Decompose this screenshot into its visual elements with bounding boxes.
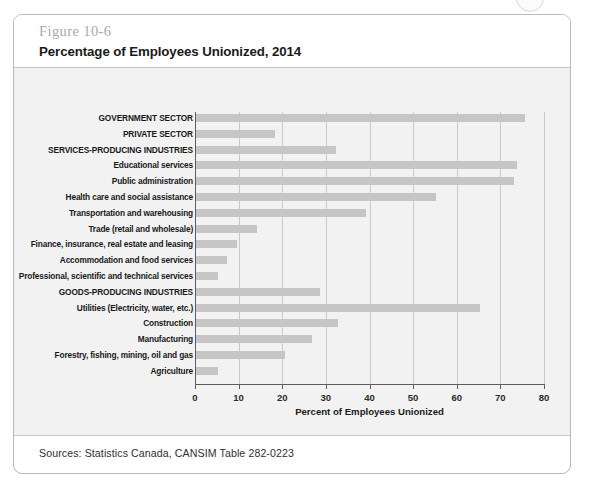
bar xyxy=(196,146,336,154)
x-axis-tick xyxy=(195,384,196,389)
bar xyxy=(196,161,517,169)
x-axis-title: Percent of Employees Unionized xyxy=(195,406,544,417)
x-axis-tick xyxy=(370,384,371,389)
chart-panel: 01020304050607080 Percent of Employees U… xyxy=(14,68,570,435)
x-axis-tick-label: 30 xyxy=(321,392,332,403)
figure-source: Sources: Statistics Canada, CANSIM Table… xyxy=(39,447,294,459)
gridline xyxy=(544,112,545,384)
figure-title: Percentage of Employees Unionized, 2014 xyxy=(39,42,570,62)
x-axis-tick xyxy=(326,384,327,389)
bar xyxy=(196,288,320,296)
plot-area: 01020304050607080 xyxy=(195,112,544,384)
x-axis-tick xyxy=(457,384,458,389)
x-axis-tick-label: 50 xyxy=(408,392,419,403)
category-label: Construction xyxy=(14,318,193,328)
bar xyxy=(196,367,218,375)
bar xyxy=(196,209,366,217)
gridline xyxy=(500,112,501,384)
chart-inner: 01020304050607080 Percent of Employees U… xyxy=(14,68,570,435)
x-axis-tick-label: 60 xyxy=(451,392,462,403)
category-label: Forestry, fishing, mining, oil and gas xyxy=(14,350,193,360)
page-corner-marker xyxy=(516,0,544,12)
category-label: PRIVATE SECTOR xyxy=(14,129,193,139)
category-label: Professional, scientific and technical s… xyxy=(14,271,193,281)
x-axis-tick xyxy=(282,384,283,389)
x-axis-tick xyxy=(239,384,240,389)
bar xyxy=(196,177,514,185)
category-label: Transportation and warehousing xyxy=(14,208,193,218)
x-axis-tick xyxy=(544,384,545,389)
gridline xyxy=(457,112,458,384)
bar xyxy=(196,130,275,138)
figure-container: Figure 10-6 Percentage of Employees Unio… xyxy=(13,14,571,474)
bar xyxy=(196,304,480,312)
figure-header: Figure 10-6 Percentage of Employees Unio… xyxy=(14,15,570,67)
bar xyxy=(196,319,338,327)
x-axis-tick xyxy=(413,384,414,389)
x-axis-tick-label: 70 xyxy=(495,392,506,403)
x-axis-tick xyxy=(500,384,501,389)
category-label: Trade (retail and wholesale) xyxy=(14,224,193,234)
bar xyxy=(196,114,525,122)
x-axis-tick-label: 10 xyxy=(233,392,244,403)
category-label: Finance, insurance, real estate and leas… xyxy=(14,239,193,249)
bar xyxy=(196,225,257,233)
category-label: GOVERNMENT SECTOR xyxy=(14,113,193,123)
category-label: Accommodation and food services xyxy=(14,255,193,265)
category-label: Educational services xyxy=(14,160,193,170)
bar xyxy=(196,193,436,201)
figure-page: Figure 10-6 Percentage of Employees Unio… xyxy=(0,0,590,488)
category-label: Manufacturing xyxy=(14,334,193,344)
gridline xyxy=(413,112,414,384)
bar xyxy=(196,240,237,248)
category-label: GOODS-PRODUCING INDUSTRIES xyxy=(14,287,193,297)
figure-number: Figure 10-6 xyxy=(39,23,570,40)
gridline xyxy=(370,112,371,384)
category-label: Agriculture xyxy=(14,366,193,376)
footer-divider xyxy=(14,435,570,436)
x-axis-tick-label: 80 xyxy=(539,392,550,403)
x-axis-tick-label: 40 xyxy=(364,392,375,403)
category-label: SERVICES-PRODUCING INDUSTRIES xyxy=(14,145,193,155)
category-label: Public administration xyxy=(14,176,193,186)
category-label: Utilities (Electricity, water, etc.) xyxy=(14,303,193,313)
bar xyxy=(196,272,218,280)
x-axis-tick-label: 0 xyxy=(192,392,197,403)
bar xyxy=(196,256,227,264)
bar xyxy=(196,335,312,343)
x-axis-tick-label: 20 xyxy=(277,392,288,403)
bar xyxy=(196,351,285,359)
category-label: Health care and social assistance xyxy=(14,192,193,202)
